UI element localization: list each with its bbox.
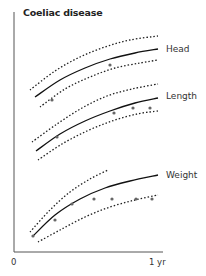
weight-data-point — [70, 202, 73, 205]
weight-data-point — [31, 234, 34, 237]
x-tick-0: 0 — [11, 257, 16, 267]
length-lower-centile-line — [38, 111, 158, 160]
head-lower-centile-line — [40, 60, 158, 107]
length-data-point — [55, 135, 58, 138]
length-data-point — [148, 106, 151, 109]
weight-data-point — [53, 218, 56, 221]
length-data-point — [131, 106, 134, 109]
weight-lower-centile-line — [38, 195, 158, 242]
series-head — [30, 36, 158, 107]
weight-upper-centile-line — [30, 170, 108, 232]
length-reference-mean-line — [36, 98, 158, 151]
growth-chart — [0, 0, 206, 276]
weight-data-point — [110, 197, 113, 200]
length-data-point — [112, 111, 115, 114]
head-data-point — [50, 98, 53, 101]
head-reference-mean-line — [35, 49, 158, 97]
head-data-point — [108, 63, 111, 66]
series-label-weight: Weight — [166, 170, 197, 180]
chart-title: Coeliac disease — [23, 7, 102, 18]
series-weight — [30, 170, 158, 242]
series-length — [32, 84, 158, 160]
weight-data-point — [150, 197, 153, 200]
weight-data-point — [134, 197, 137, 200]
x-tick-1yr: 1 yr — [149, 257, 166, 267]
weight-data-point — [92, 197, 95, 200]
series-label-length: Length — [166, 91, 197, 101]
weight-reference-mean-line — [33, 175, 158, 236]
series-label-head: Head — [166, 44, 190, 54]
